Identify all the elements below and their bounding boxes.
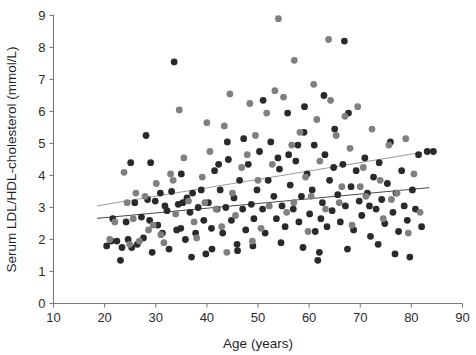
y-tick-label: 4: [38, 168, 45, 183]
data-point-series-dark: [217, 187, 224, 194]
data-point-series-gray: [223, 249, 230, 256]
data-point-series-dark: [301, 103, 308, 110]
data-point-series-dark: [356, 198, 363, 205]
data-point-series-dark: [334, 191, 341, 198]
data-point-series-dark: [312, 228, 319, 235]
data-point-series-gray: [226, 91, 233, 98]
data-point-series-dark: [311, 142, 318, 149]
data-point-series-dark: [168, 188, 175, 195]
data-point-series-dark: [384, 180, 391, 187]
x-tick-label: 80: [404, 310, 418, 325]
data-point-series-dark: [187, 209, 194, 216]
data-point-series-gray: [394, 190, 401, 197]
data-point-series-gray: [357, 183, 364, 190]
data-point-series-dark: [390, 209, 397, 216]
data-point-series-gray: [191, 219, 198, 226]
data-point-series-gray: [249, 238, 256, 245]
data-point-series-dark: [309, 187, 316, 194]
data-point-series-gray: [258, 225, 265, 232]
data-point-series-dark: [415, 151, 422, 158]
data-point-series-dark: [418, 223, 425, 230]
data-point-series-dark: [366, 203, 373, 210]
data-point-series-dark: [256, 148, 263, 155]
fit-dark-lower: [97, 188, 429, 219]
y-tick-label: 1: [38, 264, 45, 279]
data-point-series-gray: [207, 148, 214, 155]
data-point-series-gray: [369, 126, 376, 133]
data-point-series-dark: [119, 244, 126, 251]
data-point-series-gray: [347, 145, 354, 152]
data-point-series-gray: [263, 110, 270, 117]
data-point-series-dark: [234, 247, 241, 254]
data-point-series-gray: [385, 142, 392, 149]
data-point-series-gray: [280, 94, 287, 101]
data-points: [103, 15, 436, 263]
data-point-series-dark: [143, 132, 150, 139]
data-point-series-dark: [296, 219, 303, 226]
data-point-series-dark: [322, 151, 329, 158]
data-point-series-gray: [402, 135, 409, 142]
data-point-series-gray: [354, 103, 361, 110]
data-point-series-dark: [222, 204, 229, 211]
data-point-series-dark: [342, 203, 349, 210]
data-point-series-dark: [341, 38, 348, 45]
data-point-series-dark: [178, 171, 185, 178]
data-point-series-dark: [177, 225, 184, 232]
data-point-series-gray: [203, 119, 210, 126]
data-point-series-gray: [327, 97, 334, 104]
data-point-series-gray: [377, 177, 384, 184]
data-point-series-dark: [316, 249, 323, 256]
data-point-series-gray: [266, 203, 273, 210]
data-point-series-dark: [147, 159, 154, 166]
y-tick-label: 3: [38, 200, 45, 215]
data-point-series-gray: [417, 209, 424, 216]
axes: [50, 15, 463, 308]
data-point-series-gray: [126, 241, 133, 248]
data-point-series-dark: [157, 190, 164, 197]
data-point-series-gray: [322, 206, 329, 213]
data-point-series-dark: [282, 223, 289, 230]
x-tick-label: 30: [149, 310, 163, 325]
data-point-series-dark: [406, 254, 413, 261]
data-point-series-gray: [349, 222, 356, 229]
data-point-series-dark: [401, 203, 408, 210]
data-point-series-dark: [331, 126, 338, 133]
data-point-series-dark: [276, 166, 283, 173]
data-point-series-gray: [255, 177, 262, 184]
data-point-series-gray: [193, 235, 200, 242]
data-point-series-gray: [325, 36, 332, 43]
data-point-series-dark: [344, 246, 351, 253]
data-point-series-gray: [157, 231, 164, 238]
data-point-series-dark: [138, 214, 145, 221]
data-point-series-dark: [292, 158, 299, 165]
data-point-series-dark: [317, 215, 324, 222]
x-axis-title: Age (years): [223, 336, 293, 351]
data-point-series-dark: [348, 183, 355, 190]
data-point-series-dark: [353, 167, 360, 174]
data-point-series-dark: [409, 187, 416, 194]
data-point-series-gray: [185, 198, 192, 205]
x-tick-label: 70: [353, 310, 367, 325]
data-point-series-dark: [240, 135, 247, 142]
x-tick-label: 40: [200, 310, 214, 325]
data-point-series-dark: [200, 217, 207, 224]
data-point-series-dark: [236, 177, 243, 184]
data-point-series-gray: [111, 219, 118, 226]
data-point-series-gray: [176, 107, 183, 114]
data-point-series-gray: [380, 215, 387, 222]
data-point-series-dark: [324, 223, 331, 230]
data-point-series-dark: [117, 257, 124, 264]
data-point-series-gray: [288, 142, 295, 149]
data-point-series-dark: [367, 233, 374, 240]
x-tick-label: 10: [46, 310, 60, 325]
y-axis-title: Serum LDL/HDL-cholesterol (mmol/L): [4, 47, 19, 273]
y-tick-label: 5: [38, 136, 45, 151]
data-point-series-gray: [244, 151, 251, 158]
data-point-series-dark: [285, 151, 292, 158]
data-point-series-gray: [130, 215, 137, 222]
data-point-series-gray: [167, 171, 174, 178]
data-point-series-dark: [251, 215, 258, 222]
data-point-series-gray: [124, 199, 131, 206]
data-point-series-dark: [259, 206, 266, 213]
data-point-series-dark: [330, 164, 337, 171]
